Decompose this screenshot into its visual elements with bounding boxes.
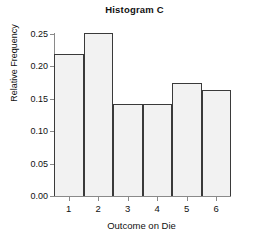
x-axis-label: Outcome on Die xyxy=(54,220,229,231)
x-tick xyxy=(69,197,70,201)
x-tick xyxy=(98,197,99,201)
x-tick xyxy=(157,197,158,201)
y-tick-label: 0.10 xyxy=(30,126,48,136)
y-tick-label: 0.15 xyxy=(30,94,48,104)
y-tick-label: 0.00 xyxy=(30,191,48,201)
histogram-bar xyxy=(202,90,232,196)
y-tick-label: 0.25 xyxy=(30,29,48,39)
x-tick xyxy=(128,197,129,201)
histogram-bar xyxy=(143,104,173,196)
y-tick xyxy=(50,196,54,197)
y-tick-label: 0.20 xyxy=(30,61,48,71)
histogram-bar xyxy=(172,83,202,196)
histogram-figure: Histogram C Relative Frequency 0.000.050… xyxy=(0,0,269,238)
x-tick xyxy=(187,197,188,201)
x-tick-label: 6 xyxy=(214,203,219,214)
histogram-bar xyxy=(54,54,84,196)
y-axis-label: Relative Frequency xyxy=(9,0,19,133)
x-tick-label: 5 xyxy=(184,203,189,214)
y-tick-label: 0.05 xyxy=(30,159,48,169)
y-tick xyxy=(50,34,54,35)
x-tick-label: 4 xyxy=(155,203,160,214)
histogram-bar xyxy=(84,33,114,196)
histogram-bar xyxy=(113,104,143,196)
x-axis-line xyxy=(54,196,231,197)
plot-area: 0.000.050.100.150.200.25 123456 xyxy=(54,30,231,197)
chart-title: Histogram C xyxy=(0,4,269,15)
x-tick-label: 1 xyxy=(66,203,71,214)
x-tick-label: 2 xyxy=(96,203,101,214)
x-tick xyxy=(216,197,217,201)
x-tick-label: 3 xyxy=(125,203,130,214)
